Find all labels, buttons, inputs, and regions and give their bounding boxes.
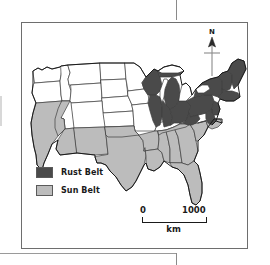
page-border-rule-bottom-vertical	[176, 253, 177, 265]
legend-item-rust-belt: Rust Belt	[36, 166, 131, 179]
state-oklahoma	[105, 126, 139, 137]
north-arrow: N	[200, 28, 224, 78]
legend-label-rust-belt: Rust Belt	[61, 168, 103, 177]
state-oregon	[32, 81, 62, 103]
state-new-mexico	[74, 127, 108, 155]
state-wyoming	[70, 83, 102, 103]
page-border-rule-top	[176, 0, 177, 20]
state-colorado	[71, 101, 105, 128]
scale-bar-tick-start	[142, 217, 143, 223]
scale-bar-unit-label: km	[140, 224, 207, 234]
map-legend: Rust Belt Sun Belt	[36, 166, 131, 202]
map-figure-frame: N Rust Belt Sun Belt 0 1000 km	[21, 22, 248, 249]
legend-item-sun-belt: Sun Belt	[36, 184, 131, 197]
legend-swatch-rust-belt	[36, 167, 53, 178]
scale-bar-start-label: 0	[140, 205, 146, 215]
page-edge-artifact	[0, 96, 2, 126]
state-kansas	[103, 111, 134, 127]
lake-huron-erie	[179, 83, 192, 101]
legend-label-sun-belt: Sun Belt	[61, 186, 100, 195]
state-south-dakota	[101, 79, 128, 98]
scale-bar: 0 1000 km	[140, 205, 235, 234]
legend-swatch-sun-belt	[36, 185, 53, 196]
scale-bar-numbers: 0 1000	[140, 205, 235, 216]
page-border-rule-bottom	[0, 253, 176, 254]
state-minnesota	[125, 63, 146, 91]
scale-bar-tick-end	[206, 217, 207, 223]
north-arrow-label: N	[200, 28, 224, 36]
state-montana	[68, 63, 101, 85]
scale-bar-end-label: 1000	[182, 205, 206, 215]
scale-bar-line	[140, 217, 207, 223]
state-nebraska	[102, 96, 133, 113]
